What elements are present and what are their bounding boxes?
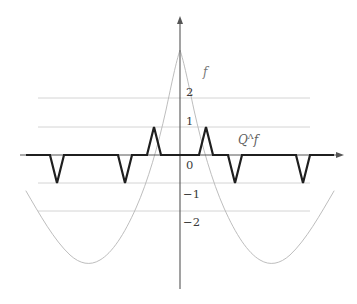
y-tick-label-minus-1: −1 bbox=[183, 189, 200, 201]
y-tick-label-1: 1 bbox=[186, 116, 193, 128]
y-tick-label-2: 2 bbox=[186, 87, 193, 99]
y-tick-label-minus-2: −2 bbox=[183, 217, 200, 229]
plot-canvas bbox=[0, 0, 357, 304]
quantization-figure: 2 1 0 −1 −2 f QΛf bbox=[0, 0, 357, 304]
quantized-label-base: Q bbox=[238, 133, 248, 147]
quantized-curve-label: QΛf bbox=[238, 133, 258, 146]
quantized-label-tail: f bbox=[254, 133, 258, 147]
f-curve-label: f bbox=[203, 66, 207, 78]
y-tick-label-0: 0 bbox=[186, 160, 193, 172]
